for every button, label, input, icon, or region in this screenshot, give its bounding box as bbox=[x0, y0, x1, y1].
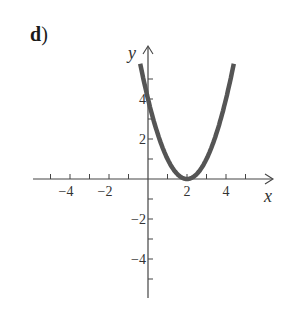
x-axis-label: x bbox=[263, 186, 272, 206]
x-tick-label: 4 bbox=[223, 184, 230, 199]
y-axis-label: y bbox=[126, 43, 136, 63]
parabola-chart: −4−22442−2−4xy bbox=[0, 0, 287, 316]
y-tick-label: 2 bbox=[139, 132, 146, 147]
y-tick-label: −4 bbox=[131, 252, 146, 267]
y-tick-label: −2 bbox=[131, 212, 146, 227]
x-tick-label: −2 bbox=[98, 184, 113, 199]
x-tick-label: 2 bbox=[184, 184, 191, 199]
x-tick-label: −4 bbox=[59, 184, 74, 199]
parabola-curve bbox=[140, 64, 234, 179]
